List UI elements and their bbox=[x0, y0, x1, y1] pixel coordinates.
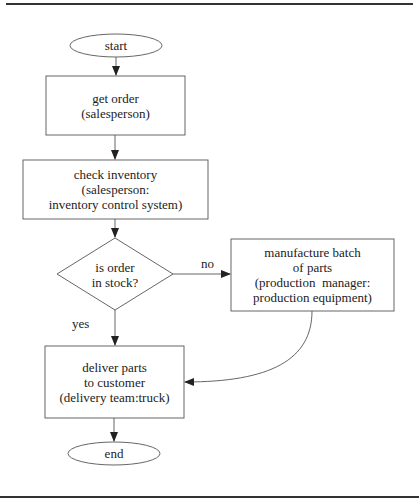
manufacture-line-1: manufacture batch bbox=[264, 245, 360, 260]
get-order-line-1: get order bbox=[92, 91, 139, 106]
end-terminator: end bbox=[68, 442, 160, 465]
get-order-line-2: (salesperson) bbox=[81, 106, 150, 121]
check-inventory-line-3: inventory control system) bbox=[49, 197, 183, 212]
start-terminator: start bbox=[70, 34, 162, 57]
get-order-box: get order (salesperson) bbox=[46, 76, 185, 135]
manufacture-box: manufacture batch of parts (production m… bbox=[231, 239, 394, 311]
end-label: end bbox=[105, 446, 124, 461]
deliver-line-1: deliver parts bbox=[82, 360, 147, 375]
edge-manufacture-to-deliver bbox=[185, 311, 312, 382]
deliver-line-2: to customer bbox=[84, 375, 145, 390]
in-stock-decision: is order in stock? bbox=[75, 259, 155, 291]
check-inventory-line-2: (salesperson: bbox=[82, 182, 150, 197]
edge-label-yes: yes bbox=[72, 316, 89, 331]
check-inventory-box: check inventory (salesperson: inventory … bbox=[23, 160, 208, 219]
edge-label-no: no bbox=[201, 256, 214, 271]
manufacture-line-3: (production manager: bbox=[255, 275, 371, 290]
decision-line-1: is order bbox=[95, 260, 134, 275]
start-label: start bbox=[105, 38, 127, 53]
deliver-box: deliver parts to customer (delivery team… bbox=[45, 346, 184, 418]
check-inventory-line-1: check inventory bbox=[74, 167, 157, 182]
deliver-line-3: (delivery team:truck) bbox=[59, 390, 169, 405]
manufacture-line-4: production equipment) bbox=[253, 290, 372, 305]
decision-line-2: in stock? bbox=[92, 275, 139, 290]
manufacture-line-2: of parts bbox=[293, 260, 332, 275]
